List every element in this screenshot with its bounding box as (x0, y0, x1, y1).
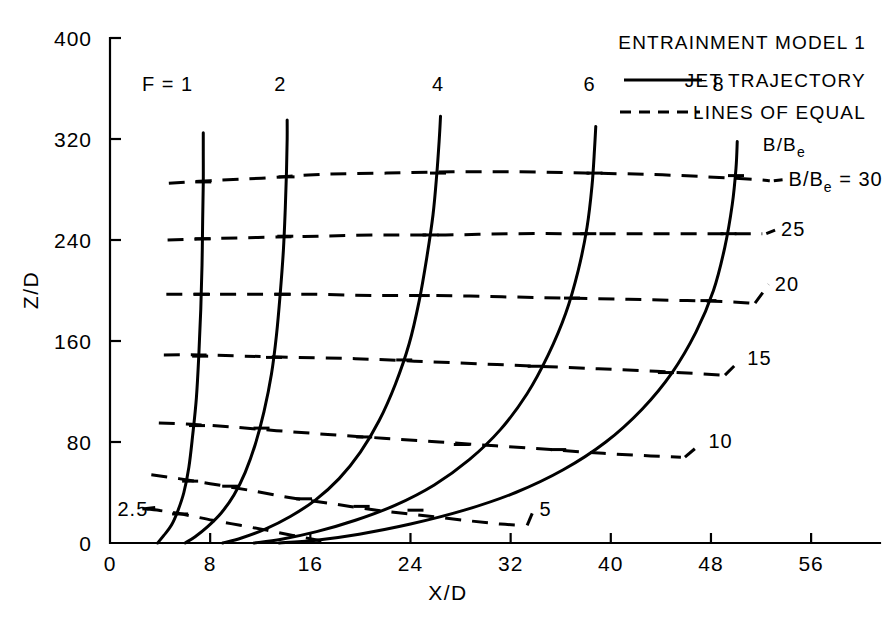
x-tick-label: 8 (204, 552, 217, 575)
contour-leader (527, 510, 533, 525)
contour-label: 20 (775, 273, 799, 295)
contour-label: 2.5 (118, 498, 149, 520)
legend-jet-label: JET TRAJECTORY (685, 70, 866, 91)
x-tick-label: 0 (104, 552, 117, 575)
x-tick-label: 40 (598, 552, 623, 575)
y-tick-label: 240 (54, 229, 92, 252)
contour-line (159, 423, 681, 457)
legend-bbe-label: B/Be (763, 134, 806, 160)
contour-line (169, 172, 770, 184)
contour-label: 25 (781, 218, 805, 240)
x-axis-title: X/D (428, 581, 468, 604)
contour-label: 5 (539, 498, 551, 520)
y-tick-label: 400 (54, 27, 92, 50)
y-axis-title: Z/D (19, 271, 42, 309)
x-tick-label: 48 (698, 552, 723, 575)
contour-label: B/Be = 30 (789, 168, 883, 195)
y-tick-label: 160 (54, 330, 92, 353)
crossing-marks (172, 173, 744, 514)
x-tick-label: 32 (498, 552, 523, 575)
y-tick-label: 0 (79, 532, 92, 555)
jet-trajectories (158, 116, 738, 543)
contour-line (166, 294, 751, 303)
jet-trajectory (279, 142, 737, 543)
legend-lines-label: LINES OF EQUAL (693, 102, 866, 123)
contour-leader (766, 230, 775, 233)
contour-label: 10 (708, 430, 732, 452)
x-tick-label: 56 (798, 552, 823, 575)
trajectory-label: F = 1 (142, 73, 193, 95)
contour-line (164, 355, 721, 375)
y-tick-label: 320 (54, 128, 92, 151)
legend-title: ENTRAINMENT MODEL 1 (618, 32, 866, 53)
trajectory-label: 6 (583, 73, 595, 95)
x-tick-label: 24 (398, 552, 423, 575)
contour-line (168, 234, 763, 240)
contour-leader (774, 180, 783, 181)
x-tick-label: 16 (298, 552, 323, 575)
legend: ENTRAINMENT MODEL 1 JET TRAJECTORY LINES… (618, 32, 866, 160)
chart-svg: 08162432404856080160240320400 2.55101520… (0, 0, 885, 621)
figure-container: 08162432404856080160240320400 2.55101520… (0, 0, 885, 621)
jet-trajectory (223, 116, 441, 543)
y-tick-label: 80 (67, 431, 92, 454)
trajectory-label: 2 (274, 73, 286, 95)
contour-leader (755, 285, 769, 304)
contour-leader (725, 359, 741, 375)
contour-label: 15 (747, 347, 771, 369)
trajectory-label: 4 (432, 73, 444, 95)
contour-leader (685, 442, 703, 457)
